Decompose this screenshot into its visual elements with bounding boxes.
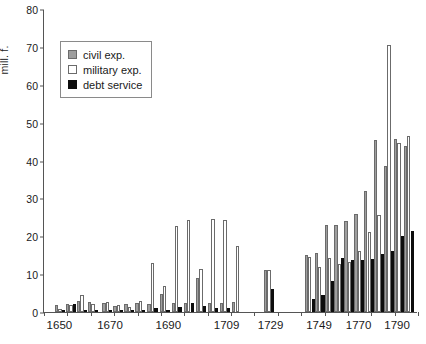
- bar-debt-1655: [84, 310, 87, 312]
- x-tick-mark: [67, 312, 68, 316]
- y-tick-label-70: 70: [26, 42, 44, 54]
- x-tick-mark: [138, 312, 139, 316]
- y-tick-label-10: 10: [26, 269, 44, 281]
- x-tick-mark: [161, 312, 162, 316]
- legend-item-debt: debt service: [68, 77, 142, 92]
- x-tick-mark: [231, 312, 232, 316]
- bar-debt-1658: [95, 310, 98, 312]
- x-tick-mark: [254, 312, 255, 316]
- x-tick-label-1650: 1650: [47, 319, 73, 331]
- bar-debt-1795: [411, 231, 414, 312]
- chart-legend: civil exp. military exp. debt service: [60, 41, 152, 98]
- bar-military-1685: [163, 286, 166, 312]
- legend-label-military: military exp.: [83, 64, 142, 76]
- bar-military-1705: [211, 219, 214, 312]
- x-tick-mark: [114, 312, 115, 316]
- bar-debt-1680: [154, 308, 157, 312]
- legend-swatch-civil-icon: [68, 50, 77, 59]
- x-tick-mark: [395, 312, 396, 316]
- x-tick-mark: [348, 312, 349, 316]
- x-tick-mark: [208, 312, 209, 316]
- y-tick-label-60: 60: [26, 80, 44, 92]
- bar-debt-1695: [191, 303, 194, 312]
- x-tick-label-1790: 1790: [384, 319, 410, 331]
- x-tick-mark: [91, 312, 92, 316]
- bar-debt-1709: [227, 308, 230, 312]
- legend-item-civil: civil exp.: [68, 47, 142, 62]
- x-tick-label-1709: 1709: [214, 319, 240, 331]
- legend-swatch-military-icon: [68, 65, 77, 74]
- x-tick-label-1770: 1770: [346, 319, 372, 331]
- y-tick-label-80: 80: [26, 4, 44, 16]
- x-tick-label-1749: 1749: [306, 319, 332, 331]
- x-tick-label-1729: 1729: [258, 319, 284, 331]
- bar-military-1690: [175, 226, 178, 312]
- x-tick-mark: [278, 312, 279, 316]
- legend-swatch-debt-icon: [68, 80, 77, 89]
- bar-debt-1668: [120, 310, 123, 312]
- x-tick-mark: [418, 312, 419, 316]
- y-tick-label-0: 0: [32, 307, 44, 319]
- bar-debt-1650: [62, 310, 65, 312]
- bar-military-1709: [223, 220, 226, 312]
- bar-chart: mill. f. 01020304050607080 1650167016901…: [0, 0, 426, 344]
- legend-item-military: military exp.: [68, 62, 142, 77]
- bar-debt-1665: [109, 310, 112, 312]
- y-tick-label-20: 20: [26, 231, 44, 243]
- bar-debt-1671: [131, 310, 134, 312]
- bar-debt-1685: [166, 310, 169, 312]
- y-tick-label-30: 30: [26, 193, 44, 205]
- legend-label-debt: debt service: [83, 79, 142, 91]
- bar-military-1680: [151, 263, 154, 312]
- bar-debt-1675: [142, 310, 145, 312]
- x-tick-mark: [371, 312, 372, 316]
- bar-debt-1700: [203, 306, 206, 312]
- y-tick-label-50: 50: [26, 118, 44, 130]
- bar-debt-1729: [271, 289, 274, 312]
- x-tick-label-1690: 1690: [156, 319, 182, 331]
- y-axis-label: mill. f.: [0, 0, 10, 120]
- x-tick-mark: [44, 312, 45, 316]
- x-tick-mark: [184, 312, 185, 316]
- y-tick-label-40: 40: [26, 156, 44, 168]
- bar-debt-1690: [178, 307, 181, 312]
- bar-debt-1652: [73, 304, 76, 312]
- bar-military-1712: [236, 246, 239, 312]
- x-tick-mark: [325, 312, 326, 316]
- x-tick-label-1670: 1670: [97, 319, 123, 331]
- x-tick-mark: [301, 312, 302, 316]
- bar-debt-1705: [215, 308, 218, 312]
- legend-label-civil: civil exp.: [83, 49, 125, 61]
- bar-military-1695: [187, 220, 190, 312]
